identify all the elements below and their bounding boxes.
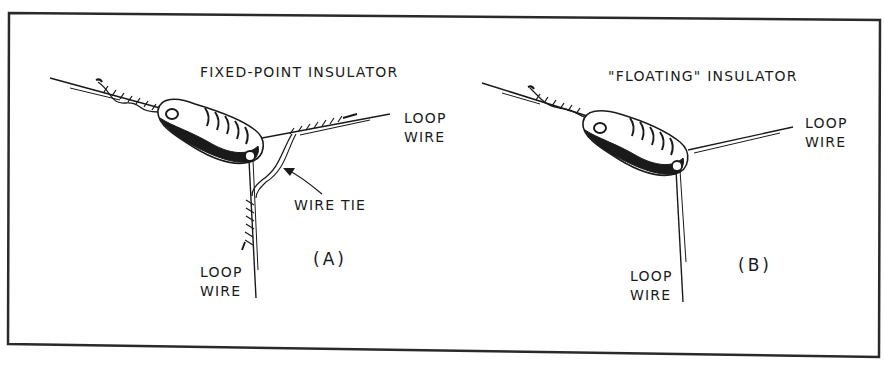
- panel-b-loop-wire-right-label: LOOP WIRE: [805, 114, 848, 152]
- panel-a-loop-wire-right-label: LOOP WIRE: [404, 109, 447, 147]
- label-line: WIRE: [630, 286, 673, 305]
- label-line: LOOP: [200, 263, 243, 282]
- panel-a-wire-tie-label: WIRE TIE: [294, 196, 366, 215]
- diagram-canvas: [0, 0, 884, 367]
- label-line: LOOP: [805, 114, 848, 133]
- figure-border: [8, 13, 880, 357]
- panel-a-letter: (A): [313, 250, 347, 269]
- wire-tie-arrow: [288, 170, 322, 194]
- insulator-a: [158, 99, 263, 163]
- label-line: WIRE: [200, 282, 243, 301]
- label-line: LOOP: [404, 109, 447, 128]
- panel-b-letter: (B): [738, 256, 772, 275]
- label-line: WIRE: [404, 128, 447, 147]
- label-line: WIRE: [805, 133, 848, 152]
- panel-b-loop-wire-bottom-label: LOOP WIRE: [630, 267, 673, 305]
- panel-a-loop-wire-bottom-label: LOOP WIRE: [200, 263, 243, 301]
- insulator-b: [583, 111, 688, 176]
- label-line: LOOP: [630, 267, 673, 286]
- panel-a-title: FIXED-POINT INSULATOR: [200, 63, 398, 82]
- panel-b-title: "FLOATING" INSULATOR: [608, 67, 798, 86]
